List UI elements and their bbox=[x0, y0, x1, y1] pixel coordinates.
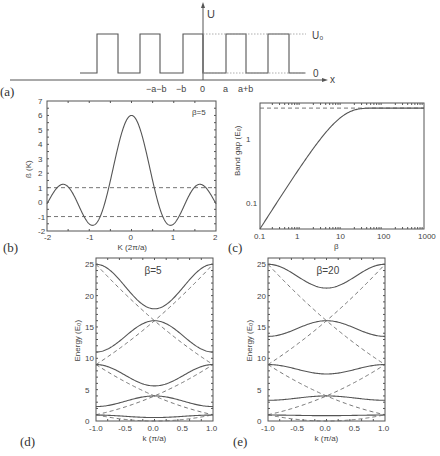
x-tick: 0.1 bbox=[254, 232, 266, 241]
panel-label-e: (e) bbox=[233, 434, 247, 449]
beta-annotation: β=5 bbox=[192, 108, 206, 117]
x-tick: 2 bbox=[213, 233, 218, 242]
energy-band bbox=[268, 415, 385, 416]
y-tick: 5 bbox=[38, 126, 43, 135]
tick-a-plus-b: a+b bbox=[238, 84, 253, 94]
y-tick: -2 bbox=[38, 227, 46, 236]
y-axis-label: U bbox=[207, 8, 215, 20]
y-tick: 6 bbox=[38, 111, 43, 120]
free-electron-band bbox=[96, 365, 213, 415]
x-tick: 100 bbox=[377, 232, 391, 241]
y-tick: 4 bbox=[38, 140, 43, 149]
x-axis-title: k (π/a) bbox=[315, 434, 339, 443]
x-tick: 1.0 bbox=[206, 424, 218, 433]
panel-b-dispersion-function: -2-1012-2-101234567K (2π/a)ß (K)β=5 bbox=[24, 97, 218, 252]
beta-annotation: β=5 bbox=[145, 265, 163, 276]
y-tick: 7 bbox=[38, 97, 43, 106]
x-tick: 1.0 bbox=[378, 424, 390, 433]
y-tick: 10 bbox=[257, 354, 266, 363]
free-electron-band bbox=[268, 365, 385, 415]
y-tick: 25 bbox=[257, 260, 266, 269]
plot-frame bbox=[47, 101, 216, 231]
y-axis-title: Energy (E₀) bbox=[245, 320, 254, 362]
x-tick: -0.5 bbox=[290, 424, 304, 433]
beta-curve bbox=[47, 115, 216, 225]
x-tick: 0.0 bbox=[148, 424, 160, 433]
y-tick: -1 bbox=[38, 213, 46, 222]
zero-label: 0 bbox=[313, 68, 319, 79]
x-tick: 0.0 bbox=[320, 424, 332, 433]
x-tick: 0.5 bbox=[349, 424, 361, 433]
energy-band bbox=[268, 365, 385, 374]
tick-a: a bbox=[223, 84, 228, 94]
tick-neg-b: −b bbox=[176, 84, 186, 94]
x-axis-arrow-icon bbox=[322, 78, 328, 82]
free-electron-band bbox=[268, 264, 385, 364]
x-tick: 0.5 bbox=[177, 424, 189, 433]
panel-a-potential: U x U₀ 0 −a−b −b 0 a a+b (a) bbox=[0, 2, 335, 99]
y-tick: 0 bbox=[257, 417, 262, 426]
y-tick: 0 bbox=[38, 198, 43, 207]
y-axis-title: Energy (E₀) bbox=[73, 320, 82, 362]
free-electron-band bbox=[96, 264, 213, 364]
panel-label-d: (d) bbox=[20, 434, 35, 449]
x-tick: 1 bbox=[171, 233, 176, 242]
panel-d-band-structure-beta5: -1.0-0.50.00.51.00510152025k (π/a)Energy… bbox=[73, 258, 218, 443]
panel-e-band-structure-beta20: -1.0-0.50.00.51.00510152025k (π/a)Energy… bbox=[245, 258, 390, 443]
u0-label: U₀ bbox=[312, 30, 323, 41]
panel-label-a: (a) bbox=[0, 84, 14, 99]
y-tick: 0 bbox=[85, 417, 90, 426]
energy-band bbox=[96, 415, 213, 418]
x-axis-title: β bbox=[334, 242, 339, 251]
panel-label-b: (b) bbox=[3, 240, 18, 255]
potential-curve bbox=[80, 34, 305, 73]
energy-band bbox=[96, 321, 213, 352]
free-electron-band bbox=[268, 365, 385, 415]
y-tick: 2 bbox=[38, 169, 43, 178]
y-tick: 25 bbox=[85, 260, 94, 269]
x-tick: 1 bbox=[295, 232, 300, 241]
plot-frame bbox=[260, 103, 424, 229]
free-electron-band bbox=[268, 264, 385, 364]
x-tick: -1.0 bbox=[89, 424, 103, 433]
y-axis-title: Band gap (E₀) bbox=[233, 125, 242, 176]
energy-band bbox=[268, 396, 385, 400]
x-tick: -1 bbox=[86, 233, 94, 242]
x-axis-title: k (π/a) bbox=[143, 434, 167, 443]
figure-canvas: U x U₀ 0 −a−b −b 0 a a+b (a) -2-1012-2-1… bbox=[0, 0, 440, 456]
x-axis-title: K (2π/a) bbox=[118, 243, 148, 252]
panel-label-c: (c) bbox=[228, 240, 242, 255]
energy-band bbox=[96, 396, 213, 407]
x-tick: 1000 bbox=[418, 232, 436, 241]
y-tick: 20 bbox=[257, 292, 266, 301]
y-tick: 1 bbox=[246, 135, 251, 144]
y-tick: 5 bbox=[85, 386, 90, 395]
x-tick: -1.0 bbox=[261, 424, 275, 433]
free-electron-band bbox=[96, 365, 213, 415]
panel-c-band-gap: 0.111010010000.11βBand gap (E₀) bbox=[233, 103, 436, 251]
y-tick: 0.1 bbox=[246, 199, 258, 208]
beta-annotation: β=20 bbox=[317, 265, 340, 276]
y-tick: 15 bbox=[257, 323, 266, 332]
y-axis-title: ß (K) bbox=[24, 160, 33, 178]
tick-zero: 0 bbox=[200, 84, 205, 94]
x-tick: 0 bbox=[129, 233, 134, 242]
x-tick: 10 bbox=[336, 232, 345, 241]
y-tick: 1 bbox=[38, 184, 43, 193]
y-tick: 20 bbox=[85, 292, 94, 301]
y-axis-arrow-icon bbox=[201, 2, 205, 8]
tick-neg-a-b: −a−b bbox=[146, 84, 167, 94]
band-gap-curve bbox=[260, 108, 424, 229]
y-tick: 10 bbox=[85, 354, 94, 363]
energy-band bbox=[268, 321, 385, 337]
y-tick: 5 bbox=[257, 386, 262, 395]
free-electron-band bbox=[96, 264, 213, 364]
y-tick: 15 bbox=[85, 323, 94, 332]
y-tick: 3 bbox=[38, 155, 43, 164]
x-axis-label: x bbox=[330, 74, 335, 85]
x-tick: -2 bbox=[44, 233, 52, 242]
x-tick: -0.5 bbox=[118, 424, 132, 433]
